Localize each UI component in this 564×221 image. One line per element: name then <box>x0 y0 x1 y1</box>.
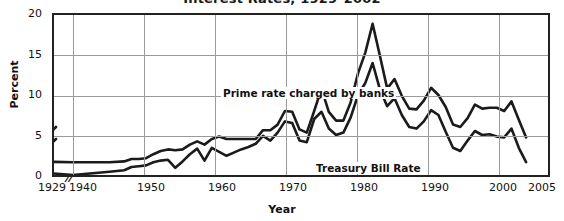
y-tick-label-20: 20 <box>8 7 42 20</box>
x-axis-label: Year <box>0 203 564 216</box>
chart-figure: Interest Rates, 1929–2002 Percent Year 2… <box>0 0 564 221</box>
x-tick-label-1980: 1980 <box>341 181 387 194</box>
x-tick-label-1950: 1950 <box>128 181 174 194</box>
x-tick-label-1960: 1960 <box>199 181 245 194</box>
annotation-prime-rate: Prime rate charged by banks <box>221 87 396 99</box>
y-tick-label-10: 10 <box>8 88 42 101</box>
plot-area: Prime rate charged by banks Treasury Bil… <box>52 13 550 177</box>
x-tick-label-2005: 2005 <box>520 181 564 194</box>
annotation-treasury-bill: Treasury Bill Rate <box>314 162 423 174</box>
x-tick-label-1990: 1990 <box>412 181 458 194</box>
gridline-x-2000 <box>499 15 500 175</box>
y-tick-label-5: 5 <box>8 129 42 142</box>
gridline-y-15 <box>54 55 548 56</box>
gridline-y-5 <box>54 136 548 137</box>
y-axis-label: Percent <box>8 55 21 115</box>
chart-title: Interest Rates, 1929–2002 <box>0 0 564 6</box>
gridline-x-1960 <box>215 15 216 175</box>
gridline-x-1940 <box>73 15 74 175</box>
line-treasury-bill <box>54 63 526 175</box>
gridline-x-1990 <box>428 15 429 175</box>
y-tick-label-15: 15 <box>8 48 42 61</box>
gridline-x-1950 <box>144 15 145 175</box>
x-tick-label-1970: 1970 <box>270 181 316 194</box>
